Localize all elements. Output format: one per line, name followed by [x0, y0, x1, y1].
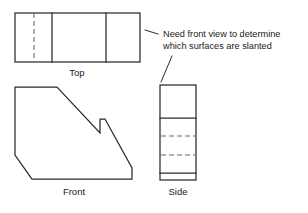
front-view-group: Front [15, 87, 132, 197]
front-view-outline [15, 87, 132, 179]
annotation-text-line-2: which surfaces are slanted [162, 41, 272, 51]
top-view-label: Top [69, 67, 84, 78]
front-view-label: Front [63, 186, 86, 197]
top-view-group: Top [15, 13, 140, 78]
leader-line-to-side-view [161, 56, 172, 82]
annotation-text-line-1: Need front view to determine [163, 29, 280, 39]
leader-line-to-top-view [145, 30, 158, 34]
side-view-outline [160, 85, 196, 180]
annotation-group: Need front view to determine which surfa… [145, 29, 280, 82]
side-view-label: Side [168, 186, 187, 197]
side-view-group: Side [160, 85, 196, 197]
drawing-canvas: Top Front Side Need front view to determ… [0, 0, 308, 213]
orthographic-drawing-figure: Top Front Side Need front view to determ… [0, 0, 308, 213]
